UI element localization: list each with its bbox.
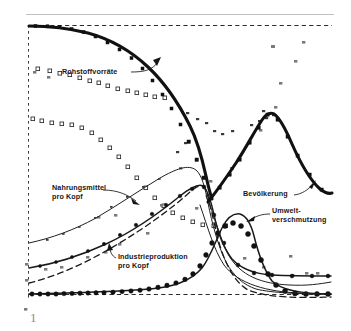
label-umweltverschmutzung-line1: Umwelt-: [272, 206, 301, 215]
label-umweltverschmutzung-line2: verschmutzung: [272, 215, 326, 224]
world3-standard-run-chart: Rohstoffvorräte Nahrungsmittel pro Kopf …: [0, 0, 351, 331]
label-rohstoffvorraete: Rohstoffvorräte: [62, 67, 117, 76]
label-nahrungsmittel-line1: Nahrungsmittel: [52, 183, 106, 192]
label-industrieproduktion-line1: Industrieproduktion: [118, 252, 188, 261]
label-bevoelkerung: Bevölkerung: [243, 189, 288, 198]
figure-number: 1: [30, 310, 37, 325]
label-nahrungsmittel-line2: pro Kopf: [52, 192, 83, 201]
label-industrieproduktion-line2: pro Kopf: [118, 261, 149, 270]
figure-container: Rohstoffvorräte Nahrungsmittel pro Kopf …: [0, 0, 351, 331]
